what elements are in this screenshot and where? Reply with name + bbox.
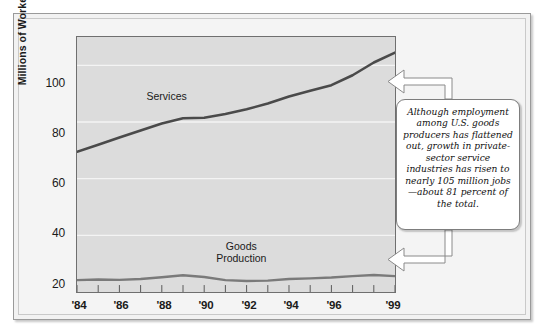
callout-text: Although employment among U.S. goods pro… (397, 100, 519, 210)
goods-inline-label-line2: Production (216, 253, 266, 265)
y-tick-label-80: 80 (31, 126, 65, 140)
x-tick-label-88: '88 (157, 299, 172, 311)
callout-box: Although employment among U.S. goods pro… (396, 99, 520, 230)
x-tick-label-92: '92 (242, 299, 257, 311)
goods-inline-label-line1: Goods (216, 241, 266, 253)
x-tick-label-84: '84 (72, 299, 87, 311)
services-line (77, 53, 395, 152)
y-axis-title: Millions of Workers (16, 0, 28, 111)
y-tick-label-100: 100 (31, 76, 65, 90)
goods-inline-label: Goods Production (216, 241, 266, 265)
x-axis-ticks (77, 285, 395, 292)
x-tick-label-90: '90 (199, 299, 214, 311)
x-tick-label-96: '96 (327, 299, 342, 311)
plot-area: Services Goods Production (76, 36, 396, 293)
services-inline-label: Services (146, 91, 186, 103)
gridlines (77, 65, 395, 235)
x-tick-label-99: '99 (386, 299, 401, 311)
x-tick-label-94: '94 (284, 299, 299, 311)
y-tick-label-60: 60 (31, 176, 65, 190)
x-tick-label-86: '86 (114, 299, 129, 311)
y-tick-label-40: 40 (31, 226, 65, 240)
goods-production-line (77, 275, 395, 281)
y-tick-label-20: 20 (31, 277, 65, 291)
